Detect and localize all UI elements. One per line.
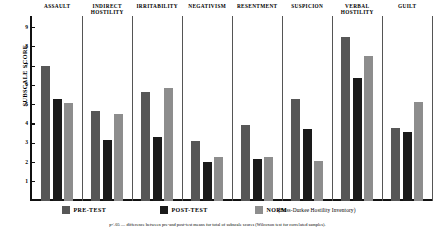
bar	[391, 128, 400, 201]
bar-group-label: VERBAL HOSTILITY	[332, 4, 382, 15]
bar-chart-figure: SUBSCALE SCORE 123456789 ASSAULTINDIRECT…	[0, 0, 435, 235]
chart-legend: PRE-TESTPOST-TESTNORM	[30, 205, 433, 217]
bar	[253, 159, 262, 201]
bar-group: GUILT	[382, 16, 432, 201]
bar-group: INDIRECT HOSTILITY	[82, 16, 132, 201]
legend-label: PRE-TEST	[74, 207, 107, 213]
bar	[41, 66, 50, 201]
bar-group-label: RESENTMENT	[232, 4, 282, 10]
bar-group-label: IRRITABILITY	[132, 4, 182, 10]
bar-group-label: GUILT	[382, 4, 432, 10]
y-tick-label: 2	[19, 160, 28, 166]
bar	[341, 37, 350, 201]
legend-swatch	[62, 206, 70, 214]
bar	[114, 114, 123, 201]
bar	[203, 162, 212, 201]
plot-area: ASSAULTINDIRECT HOSTILITYIRRITABILITYNEG…	[32, 16, 432, 201]
bar	[353, 78, 362, 201]
bar-group: SUSPICION	[282, 16, 332, 201]
legend-item: POST-TEST	[160, 206, 208, 214]
y-tick-label: 4	[19, 121, 28, 127]
group-separator	[182, 16, 183, 201]
group-separator	[432, 16, 433, 201]
bar	[364, 56, 373, 201]
group-separator	[332, 16, 333, 201]
bar	[103, 140, 112, 201]
y-tick-label: 3	[19, 140, 28, 146]
bar	[291, 99, 300, 201]
group-separator	[132, 16, 133, 201]
group-separator	[382, 16, 383, 201]
bar	[264, 157, 273, 201]
bar-group-label: NEGATIVISM	[182, 4, 232, 10]
source-note: (Buss-Durkee Hostility Inventory)	[278, 207, 356, 213]
group-separator	[82, 16, 83, 201]
bar	[414, 102, 423, 201]
group-separator	[282, 16, 283, 201]
bar-group: ASSAULT	[32, 16, 82, 201]
bar	[314, 161, 323, 201]
bar-group: NEGATIVISM	[182, 16, 232, 201]
bar	[191, 141, 200, 201]
y-tick-label: 8	[19, 44, 28, 50]
bar	[241, 125, 250, 201]
bar-group: VERBAL HOSTILITY	[332, 16, 382, 201]
y-tick-label: 7	[19, 63, 28, 69]
bar-group-label: SUSPICION	[282, 4, 332, 10]
y-axis-label: SUBSCALE SCORE	[21, 24, 28, 128]
bar	[64, 103, 73, 201]
y-tick-label: 6	[19, 82, 28, 88]
chart-footnote: p<.05 — difference between pre-and post-…	[0, 222, 435, 227]
legend-label: POST-TEST	[172, 207, 208, 213]
bar-group: RESENTMENT	[232, 16, 282, 201]
y-tick-label: 1	[19, 179, 28, 185]
bar	[403, 132, 412, 201]
bar	[141, 92, 150, 201]
legend-swatch	[255, 206, 263, 214]
bar	[153, 137, 162, 201]
legend-item: PRE-TEST	[62, 206, 106, 214]
bar	[214, 157, 223, 201]
bar-group-label: ASSAULT	[32, 4, 82, 10]
y-tick-label: 9	[19, 25, 28, 31]
bar	[53, 99, 62, 201]
bar-group-label: INDIRECT HOSTILITY	[82, 4, 132, 15]
y-tick-label: 5	[19, 102, 28, 108]
legend-swatch	[160, 206, 168, 214]
bar	[303, 129, 312, 201]
bar	[91, 111, 100, 201]
bar	[164, 88, 173, 201]
group-separator	[232, 16, 233, 201]
bar-group: IRRITABILITY	[132, 16, 182, 201]
